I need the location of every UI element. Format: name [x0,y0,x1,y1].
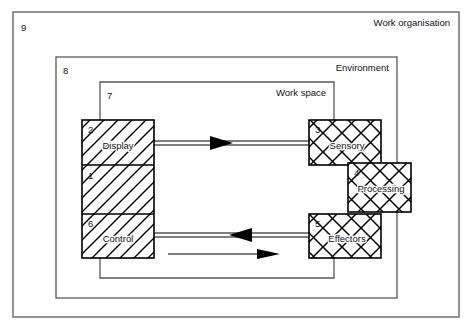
block-sensory: 3 Sensory [309,120,381,165]
block-effectors: 5 Effectors [309,214,381,258]
block-processing-number: 4 [354,167,359,178]
frame-work-space-number: 7 [107,90,112,101]
block-effectors-label: Effectors [328,233,366,244]
block-effectors-number: 5 [315,218,320,229]
block-sensory-number: 3 [315,124,320,135]
frame-work-space-label: Work space [276,87,326,98]
block-control-number: 6 [88,218,93,229]
frame-work-organisation-label: Work organisation [374,17,450,28]
block-sensory-label: Sensory [330,140,365,151]
frame-work-organisation-number: 9 [21,22,26,33]
block-machine-core-number: 1 [88,170,93,181]
frame-environment-number: 8 [63,65,68,76]
block-display-number: 2 [88,124,93,135]
block-processing-label: Processing [358,183,405,194]
diagram-canvas: 9 Work organisation 8 Environment 7 Work… [0,0,472,329]
block-display-label: Display [102,140,133,151]
work-organisation-diagram: 9 Work organisation 8 Environment 7 Work… [0,0,472,329]
block-machine-core: 1 [88,170,93,181]
frame-environment-label: Environment [336,62,390,73]
machine-stack: 2 Display 1 6 Control [82,120,154,258]
block-processing: 4 Processing [348,163,411,212]
block-control-label: Control [103,233,134,244]
